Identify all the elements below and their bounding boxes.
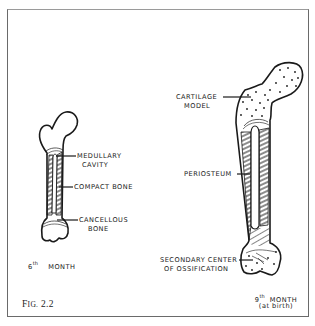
- label-medullary-cavity-line1: MEDULLARY: [77, 152, 121, 161]
- femur-6th-month: [39, 112, 77, 242]
- stage-label-6th-month: 6th MONTH: [28, 259, 76, 272]
- label-periosteum: PERIOSTEUM: [184, 170, 232, 179]
- label-secondary-center-line1: SECONDARY CENTER: [160, 256, 237, 265]
- label-medullary-cavity-line2: CAVITY: [82, 161, 108, 170]
- label-compact-bone: COMPACT BONE: [74, 183, 133, 192]
- stage-note-at-birth: (at birth): [244, 302, 308, 311]
- stage-suffix: th: [33, 260, 38, 266]
- figure-caption: FIG. 2.2: [22, 299, 54, 309]
- label-secondary-center-line2: OF OSSIFICATION: [164, 265, 229, 274]
- stage-suffix: th: [260, 293, 265, 299]
- femur-9th-month: [236, 63, 303, 275]
- bone-illustrations: [0, 0, 315, 326]
- label-cartilage-line2: MODEL: [184, 102, 210, 111]
- stage-word: MONTH: [48, 263, 75, 271]
- label-cancellous-line1: CANCELLOUS: [79, 216, 128, 225]
- label-cancellous-line2: BONE: [88, 225, 109, 234]
- caption-number: 2.2: [41, 299, 54, 309]
- caption-smallcaps: IG.: [28, 300, 39, 309]
- label-cartilage-line1: CARTILAGE: [176, 93, 217, 102]
